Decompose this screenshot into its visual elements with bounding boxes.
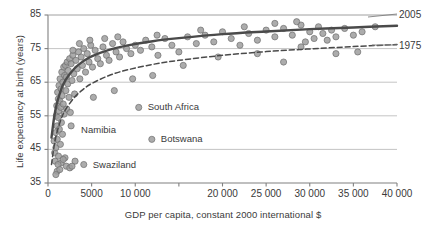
scatter-point — [90, 94, 96, 100]
annotation-marker-south-africa — [136, 104, 142, 110]
scatter-point — [76, 40, 82, 46]
y-tick-label: 85 — [15, 8, 41, 19]
scatter-point — [289, 32, 295, 38]
scatter-point — [92, 47, 98, 53]
series-label-2005: 2005 — [399, 9, 421, 20]
scatter-point — [355, 49, 361, 55]
scatter-point — [254, 37, 260, 43]
scatter-point — [70, 47, 76, 53]
scatter-point — [320, 30, 326, 36]
annotation-label-swaziland: Swaziland — [93, 159, 136, 170]
annotation-label-south-africa: South Africa — [148, 101, 199, 112]
x-tick-label: 10 000 — [105, 188, 165, 199]
scatter-point — [97, 61, 103, 67]
annotation-label-botswana: Botswana — [161, 133, 203, 144]
scatter-point — [324, 37, 330, 43]
scatter-point — [359, 29, 365, 35]
scatter-point — [228, 35, 234, 41]
scatter-point — [154, 32, 160, 38]
y-tick-label: 35 — [15, 176, 41, 187]
scatter-point — [294, 19, 300, 25]
scatter-point — [69, 77, 75, 83]
scatter-point — [241, 24, 247, 30]
scatter-point — [128, 51, 134, 57]
fit-curve-2005 — [51, 26, 397, 138]
scatter-point — [333, 51, 339, 57]
leader-line-2005 — [368, 14, 397, 17]
annotation-marker-namibia — [68, 123, 74, 129]
scatter-point — [115, 34, 121, 40]
scatter-point — [137, 47, 143, 53]
scatter-point — [150, 72, 156, 78]
scatter-point — [193, 40, 199, 46]
annotation-label-namibia: Namibia — [81, 124, 116, 135]
scatter-point — [111, 88, 117, 94]
scatter-point — [130, 76, 136, 82]
scatter-point — [60, 156, 66, 162]
scatter-point — [106, 57, 112, 63]
scatter-point — [311, 35, 317, 41]
scatter-point — [155, 52, 161, 58]
scatter-point — [102, 35, 108, 41]
series-label-1975: 1975 — [399, 40, 421, 51]
scatter-point — [120, 39, 126, 45]
scatter-point — [237, 42, 243, 48]
scatter-point — [69, 163, 75, 169]
scatter-point — [57, 141, 63, 147]
scatter-point — [87, 37, 93, 43]
annotation-marker-botswana — [149, 136, 155, 142]
scatter-point — [116, 54, 122, 60]
scatter-point — [272, 20, 278, 26]
scatter-point — [272, 34, 278, 40]
scatter-point — [176, 49, 182, 55]
scatter-point — [169, 42, 175, 48]
scatter-point — [198, 27, 204, 33]
scatter-point — [109, 40, 115, 46]
scatter-point — [59, 131, 65, 137]
scatter-point — [78, 54, 84, 60]
y-tick-label: 45 — [15, 142, 41, 153]
scatter-point — [149, 44, 155, 50]
scatter-point — [302, 39, 308, 45]
scatter-point — [53, 172, 59, 178]
x-tick-label: 40 000 — [367, 188, 427, 199]
scatter-point — [89, 64, 95, 70]
scatter-point — [67, 109, 73, 115]
scatter-point — [180, 62, 186, 68]
chart-figure: Life expectancy at birth (years) GDP per… — [0, 0, 433, 232]
y-tick-label: 75 — [15, 42, 41, 53]
scatter-point — [77, 76, 83, 82]
scatter-point — [66, 94, 72, 100]
x-axis-title: GDP per capita, constant 2000 internatio… — [48, 209, 398, 220]
scatter-point — [280, 59, 286, 65]
scatter-point — [84, 51, 90, 57]
annotation-marker-swaziland — [81, 161, 87, 167]
y-tick-label: 65 — [15, 75, 41, 86]
series-leader-lines — [368, 14, 397, 45]
scatter-point — [63, 88, 69, 94]
scatter-point — [211, 39, 217, 45]
scatter-point — [82, 69, 88, 75]
scatter-point — [333, 34, 339, 40]
scatter-point — [100, 44, 106, 50]
scatter-point — [350, 32, 356, 38]
scatter-points — [51, 19, 378, 178]
y-tick-label: 55 — [15, 109, 41, 120]
